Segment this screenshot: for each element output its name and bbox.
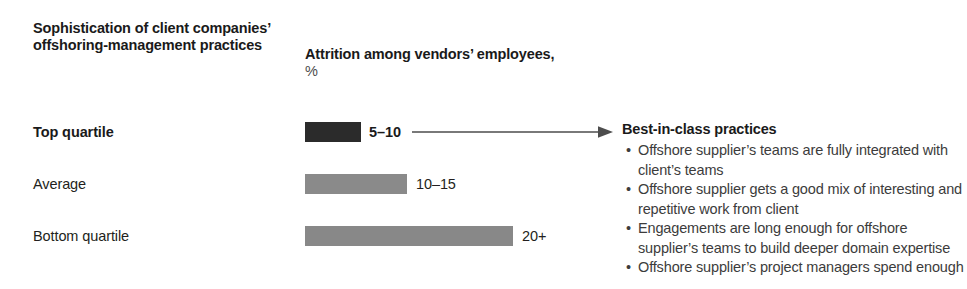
row-label-average: Average	[33, 174, 86, 194]
chart-row: Average 10–15	[0, 172, 600, 196]
list-item-text: Offshore supplier’s teams are fully inte…	[638, 142, 948, 178]
list-item: • Engagements are long enough for offsho…	[622, 219, 967, 258]
bar-top-quartile	[305, 122, 361, 142]
list-item: • Offshore supplier’s project managers s…	[622, 258, 967, 278]
bar-bottom-quartile	[305, 226, 513, 246]
middle-column-header-unit: %	[305, 63, 318, 79]
bar-value-top-quartile: 5–10	[369, 122, 401, 142]
bullet-dot-icon: •	[626, 258, 631, 278]
list-item-text: Offshore supplier gets a good mix of int…	[638, 181, 962, 217]
row-label-top-quartile: Top quartile	[33, 122, 114, 142]
list-item-text: Offshore supplier’s project managers spe…	[638, 259, 964, 275]
middle-column-header: Attrition among vendors’ employees, %	[305, 46, 555, 80]
arrow-right-icon	[412, 123, 614, 141]
callout-bullet-list: • Offshore supplier’s teams are fully in…	[622, 141, 967, 278]
bullet-dot-icon: •	[626, 219, 631, 239]
bar-value-average: 10–15	[416, 174, 456, 194]
bar-average	[305, 174, 407, 194]
offshoring-attrition-exhibit: Sophistication of client companies’ offs…	[0, 0, 967, 289]
bullet-dot-icon: •	[626, 141, 631, 161]
row-label-bottom-quartile: Bottom quartile	[33, 226, 129, 246]
bullet-dot-icon: •	[626, 180, 631, 200]
list-item-text: Engagements are long enough for offshore…	[638, 220, 950, 256]
callout-title: Best-in-class practices	[622, 120, 967, 139]
left-column-header: Sophistication of client companies’ offs…	[33, 20, 298, 54]
bar-value-bottom-quartile: 20+	[522, 226, 546, 246]
best-in-class-callout: Best-in-class practices • Offshore suppl…	[622, 120, 967, 278]
list-item: • Offshore supplier’s teams are fully in…	[622, 141, 967, 180]
list-item: • Offshore supplier gets a good mix of i…	[622, 180, 967, 219]
middle-column-header-text: Attrition among vendors’ employees,	[305, 46, 554, 62]
chart-row: Bottom quartile 20+	[0, 224, 600, 248]
